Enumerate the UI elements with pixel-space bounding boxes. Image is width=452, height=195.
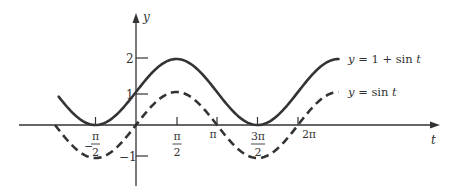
svg-text:2: 2 xyxy=(174,146,181,159)
x-axis-arrow-icon xyxy=(430,122,440,129)
legend-label-one-plus-sin: y = 1 + sin t xyxy=(347,52,421,66)
curve-one-plus-sin xyxy=(59,59,339,125)
x-tick-label-2pi: 2π xyxy=(302,128,316,141)
y-tick-label-neg1: −1 xyxy=(119,150,137,164)
y-ticks xyxy=(136,58,148,156)
y-axis-arrow-icon xyxy=(133,13,140,23)
x-axis-label: t xyxy=(431,133,436,147)
x-tick-label-pi-over-2: π 2 xyxy=(173,130,182,159)
svg-text:2: 2 xyxy=(255,146,262,159)
x-tick-label-pi: π xyxy=(209,128,216,141)
svg-text:π: π xyxy=(92,130,99,143)
svg-text:π: π xyxy=(173,130,180,143)
y-axis-label: y xyxy=(142,10,150,24)
x-tick-label-3pi-over-2: 3π 2 xyxy=(251,130,265,159)
legend-label-sin: y = sin t xyxy=(347,85,397,99)
y-tick-label-2: 2 xyxy=(126,52,134,66)
sine-chart: y t 2 1 −1 − π 2 π 2 π 3π 2 2π y = 1 + s… xyxy=(0,0,452,195)
y-tick-label-1: 1 xyxy=(126,88,134,102)
svg-text:2: 2 xyxy=(92,146,99,159)
svg-text:3π: 3π xyxy=(251,130,265,143)
